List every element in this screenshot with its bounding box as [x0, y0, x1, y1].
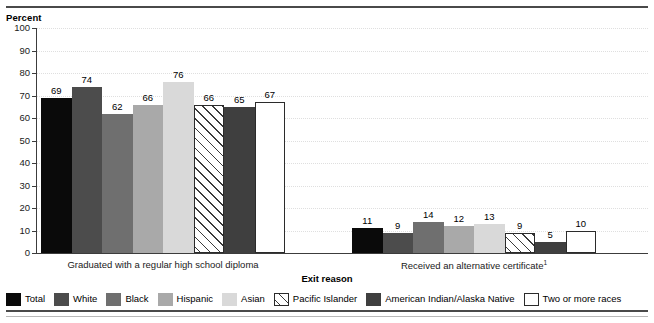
bar-value-label: 76: [163, 70, 194, 80]
x-axis-title: Exit reason: [0, 273, 654, 284]
bar: [255, 102, 286, 253]
bar-value-label: 11: [352, 216, 383, 226]
y-axis-tick-label: 40: [4, 158, 30, 167]
footnote-marker: 1: [543, 259, 547, 266]
bar: [163, 82, 194, 253]
bar: [194, 105, 225, 254]
chart-plot-area: 69746266766665671191412139510: [36, 28, 648, 253]
y-axis-tick-label: 80: [4, 68, 30, 77]
bar: [102, 114, 133, 254]
y-axis-tick-mark: [32, 208, 36, 209]
bar-value-label: 66: [133, 93, 164, 103]
legend-label: Asian: [241, 294, 265, 304]
bar: [41, 98, 72, 253]
legend-swatch: [158, 293, 173, 306]
y-axis-tick-label: 20: [4, 203, 30, 212]
y-axis-line: [36, 28, 37, 254]
bar: [133, 105, 164, 254]
bar: [383, 233, 414, 253]
legend-item: Black: [106, 293, 148, 306]
bar-value-label: 10: [566, 219, 597, 229]
bar-value-label: 12: [444, 214, 475, 224]
legend-swatch: [222, 293, 237, 306]
bar: [444, 226, 475, 253]
legend-label: Pacific Islander: [293, 294, 357, 304]
y-axis-tick-mark: [32, 231, 36, 232]
legend-label: American Indian/Alaska Native: [385, 294, 514, 304]
y-axis-tick-label: 90: [4, 46, 30, 55]
y-axis-tick-mark: [32, 186, 36, 187]
y-axis-tick-label: 0: [4, 248, 30, 257]
bottom-edge-rule: [6, 316, 648, 317]
clipped-top-caption: [0, 0, 654, 2]
legend-label: Two or more races: [543, 294, 622, 304]
legend-swatch: [54, 293, 69, 306]
bar-value-label: 66: [194, 93, 225, 103]
y-axis-tick-label: 70: [4, 91, 30, 100]
bar: [224, 107, 255, 253]
bar: [535, 242, 566, 253]
legend-swatch: [274, 293, 289, 306]
legend-item: White: [54, 293, 97, 306]
bar-value-label: 13: [474, 212, 505, 222]
bar-value-label: 9: [383, 221, 414, 231]
gridline: [36, 96, 648, 98]
legend-label: White: [73, 294, 97, 304]
legend-swatch: [106, 293, 121, 306]
y-axis-tick-mark: [32, 253, 36, 254]
legend-label: Hispanic: [177, 294, 213, 304]
bar-value-label: 5: [535, 230, 566, 240]
bar: [72, 87, 103, 254]
legend-swatch: [6, 293, 21, 306]
legend-item: American Indian/Alaska Native: [366, 293, 514, 306]
bar-value-label: 14: [413, 210, 444, 220]
bar: [566, 231, 597, 254]
top-divider-rule: [6, 6, 648, 8]
bar-value-label: 62: [102, 102, 133, 112]
legend-label: Black: [125, 294, 148, 304]
bar-value-label: 9: [505, 221, 536, 231]
legend-item: Two or more races: [524, 293, 622, 306]
y-axis-tick-mark: [32, 118, 36, 119]
bar: [474, 224, 505, 253]
gridline: [36, 28, 648, 30]
legend-item: Asian: [222, 293, 265, 306]
y-axis-tick-label: 10: [4, 226, 30, 235]
gridline: [36, 73, 648, 75]
y-axis-tick-mark: [32, 28, 36, 29]
gridline: [36, 51, 648, 53]
y-axis-tick-label: 100: [4, 23, 30, 32]
legend-divider-rule: [6, 310, 648, 312]
y-axis-tick-mark: [32, 141, 36, 142]
y-axis-tick-mark: [32, 51, 36, 52]
bar-value-label: 69: [41, 86, 72, 96]
bar: [413, 222, 444, 254]
bar-value-label: 74: [72, 75, 103, 85]
bar-value-label: 65: [224, 95, 255, 105]
y-axis-tick-label: 50: [4, 136, 30, 145]
legend-label: Total: [25, 294, 45, 304]
y-axis-tick-mark: [32, 96, 36, 97]
chart-legend: TotalWhiteBlackHispanicAsianPacific Isla…: [6, 291, 648, 307]
x-axis-category-label: Received an alternative certificate1: [292, 259, 654, 271]
legend-item: Pacific Islander: [274, 293, 357, 306]
y-axis-tick-label: 60: [4, 113, 30, 122]
legend-swatch: [524, 293, 539, 306]
legend-swatch: [366, 293, 381, 306]
y-axis-tick-label: 30: [4, 181, 30, 190]
bar: [352, 228, 383, 253]
y-axis-tick-mark: [32, 73, 36, 74]
bar-value-label: 67: [255, 90, 286, 100]
bar: [505, 233, 536, 253]
y-axis-tick-mark: [32, 163, 36, 164]
legend-item: Total: [6, 293, 45, 306]
legend-item: Hispanic: [158, 293, 213, 306]
x-axis-line: [36, 253, 648, 254]
